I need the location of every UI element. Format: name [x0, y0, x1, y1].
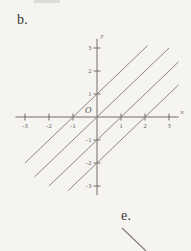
partial-line-stroke — [122, 228, 146, 251]
partial-line-segment — [0, 0, 191, 251]
scanned-figure-page: b. -3-2-1123321-1-2-3 xy O e. — [0, 0, 191, 251]
